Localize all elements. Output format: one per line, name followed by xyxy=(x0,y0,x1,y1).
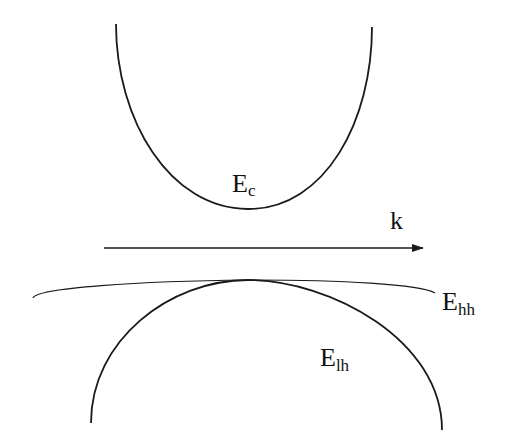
heavy-hole-band-label: Ehh xyxy=(442,287,475,319)
heavy-hole-band-curve xyxy=(33,280,435,298)
light-hole-band-curve xyxy=(91,280,442,430)
conduction-band-label: Ec xyxy=(232,169,256,200)
k-axis-label: k xyxy=(390,206,403,235)
light-hole-band-label: Elh xyxy=(320,343,350,375)
band-structure-diagram: Ec k Ehh Elh xyxy=(0,0,516,447)
